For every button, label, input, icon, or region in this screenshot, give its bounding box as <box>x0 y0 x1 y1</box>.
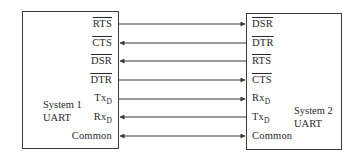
signal-label: Common <box>72 130 112 141</box>
system1-signal-dsr: DSR <box>91 55 112 67</box>
system1-signal-rts: RTS <box>93 18 112 30</box>
signal-subscript: D <box>265 97 271 106</box>
signal-label: Tx <box>94 92 106 103</box>
system2-signal-dsr: DSR <box>252 18 273 30</box>
system1-title: System 1 UART <box>43 98 82 124</box>
system2-signal-rxd: RxD <box>252 92 270 108</box>
system2-signal-dtr: DTR <box>252 37 274 49</box>
signal-label: Common <box>252 130 292 141</box>
system1-signal-cts: CTS <box>92 37 112 49</box>
signal-label: RTS <box>93 18 112 29</box>
system2-signal-cts: CTS <box>252 74 272 86</box>
system1-signal-dtr: DTR <box>90 74 112 86</box>
system2-signal-rts: RTS <box>252 55 271 67</box>
signal-label: Tx <box>252 111 264 122</box>
system1-signal-common: Common <box>72 130 112 142</box>
system2-title-line1: System 2 <box>294 104 333 117</box>
system2-uart-box: DSR DTR RTS CTS RxD TxD Common System 2 … <box>246 13 342 150</box>
system2-title-line2: UART <box>294 117 333 130</box>
system1-signal-txd: TxD <box>94 92 112 108</box>
system1-title-line1: System 1 <box>43 98 82 111</box>
system2-signal-common: Common <box>252 130 292 142</box>
system2-signal-txd: TxD <box>252 111 270 127</box>
signal-subscript: D <box>106 116 112 125</box>
signal-label: CTS <box>92 37 112 48</box>
system1-title-line2: UART <box>43 111 82 124</box>
signal-label: RTS <box>252 55 271 66</box>
system1-signal-rxd: RxD <box>94 111 112 127</box>
signal-label: DTR <box>252 37 274 48</box>
signal-subscript: D <box>264 116 270 125</box>
signal-label: CTS <box>252 74 272 85</box>
system1-uart-box: RTS CTS DSR DTR TxD RxD Common System 1 … <box>22 11 119 149</box>
signal-label: DTR <box>90 74 112 85</box>
signal-label: DSR <box>91 55 112 66</box>
signal-label: Rx <box>94 111 107 122</box>
signal-subscript: D <box>106 97 112 106</box>
system2-title: System 2 UART <box>294 104 333 130</box>
signal-label: DSR <box>252 18 273 29</box>
signal-label: Rx <box>252 92 265 103</box>
